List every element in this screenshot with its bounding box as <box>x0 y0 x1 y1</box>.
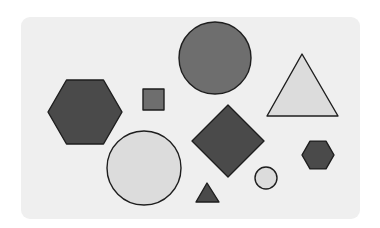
large-hexagon-shape <box>48 80 122 144</box>
shapes-layer <box>0 0 380 228</box>
small-circle-shape <box>255 167 277 189</box>
diamond-shape <box>192 105 264 177</box>
small-triangle-shape <box>196 183 219 202</box>
right-triangle-shape <box>267 54 338 116</box>
bottom-circle-shape <box>107 131 181 205</box>
shapes-canvas <box>0 0 380 228</box>
small-square-shape <box>143 89 164 110</box>
top-circle-shape <box>179 22 251 94</box>
small-hexagon-shape <box>302 141 334 169</box>
